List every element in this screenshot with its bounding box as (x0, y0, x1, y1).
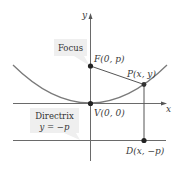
directrix-callout-equation: y = −p (39, 122, 70, 132)
directrix-callout-title: Directrix (35, 111, 74, 121)
y-axis-label: y (81, 10, 88, 20)
focus-point (88, 63, 93, 68)
d-point (141, 138, 146, 143)
y-axis-arrow-icon (89, 13, 93, 19)
d-label: D(x, −p) (125, 146, 165, 156)
focus-callout-label: Focus (58, 43, 83, 53)
vertex-point (88, 101, 93, 106)
x-axis-label: x (166, 104, 171, 114)
parabola-diagram: Focus Directrix y = −p y x F(0, p) P(x, … (0, 0, 180, 171)
p-label: P(x, y) (126, 69, 156, 79)
p-point (142, 82, 147, 87)
focus-label: F(0, p) (93, 54, 125, 64)
vertex-label: V(0, 0) (94, 108, 125, 118)
focus-callout-pointer (74, 56, 90, 66)
directrix-callout-pointer (64, 133, 80, 140)
